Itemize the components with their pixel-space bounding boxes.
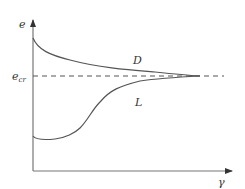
curve-l (33, 76, 200, 140)
curve-d (33, 38, 200, 76)
y-axis-label: e (19, 18, 26, 31)
curve-l-label: L (134, 96, 142, 109)
curve-d-label: D (132, 54, 142, 67)
ecr-label: ecr (12, 70, 26, 84)
diagram-canvas: e γ ecr D L (0, 0, 245, 189)
x-axis-label: γ (218, 176, 225, 189)
